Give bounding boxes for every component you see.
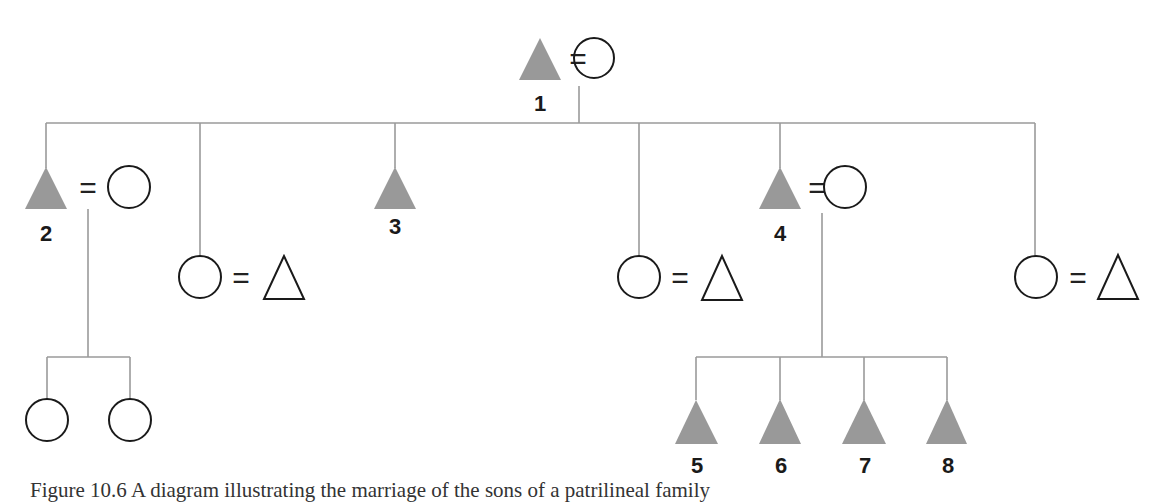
filled-triangle-icon (926, 399, 967, 444)
node-label-5: 5 (691, 453, 703, 478)
circle-icon (109, 399, 151, 441)
marriage-equals-sign: = (232, 261, 250, 294)
children-of-4: 5 6 7 8 (675, 399, 967, 478)
marriage-equals-sign: = (79, 171, 97, 204)
node-label-6: 6 (775, 453, 787, 478)
circle-icon (824, 166, 866, 208)
node-label-3: 3 (389, 214, 401, 239)
couple-sister-c: = (1015, 255, 1138, 299)
circle-icon (1015, 256, 1057, 298)
filled-triangle-icon (842, 399, 886, 444)
couple-4: = 4 (759, 166, 866, 246)
filled-triangle-icon (759, 399, 801, 444)
couple-1: = 1 (519, 38, 614, 116)
open-triangle-icon (702, 256, 742, 300)
circle-icon (26, 399, 68, 441)
filled-triangle-icon (675, 400, 718, 444)
figure-caption: Figure 10.6 A diagram illustrating the m… (30, 478, 710, 503)
node-label-2: 2 (40, 221, 52, 246)
node-label-7: 7 (859, 453, 871, 478)
circle-icon (108, 166, 150, 208)
open-triangle-icon (1098, 255, 1138, 299)
couple-sister-a: = (179, 256, 304, 299)
open-triangle-icon (264, 256, 304, 299)
node-label-1: 1 (534, 91, 546, 116)
filled-triangle-icon (759, 167, 801, 209)
filled-triangle-icon (374, 167, 416, 209)
marriage-equals-sign: = (671, 261, 689, 294)
circle-icon (618, 256, 660, 298)
filled-triangle-icon (25, 167, 67, 209)
marriage-equals-sign: = (1069, 261, 1087, 294)
children-of-2 (26, 399, 151, 441)
couple-sister-b: = (618, 256, 742, 300)
node-label-4: 4 (774, 221, 787, 246)
node-label-8: 8 (942, 453, 954, 478)
circle-icon (179, 256, 221, 298)
filled-triangle-icon (519, 38, 561, 80)
descent-lines (46, 86, 1035, 400)
person-3: 3 (374, 167, 416, 239)
